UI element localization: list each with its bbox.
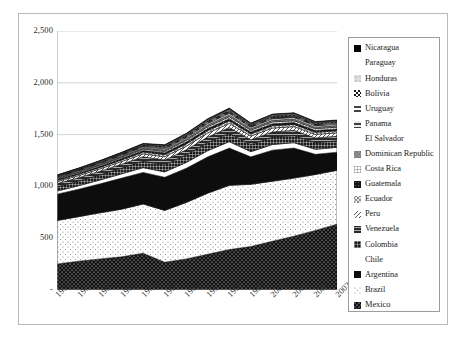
legend-item-label: Argentina xyxy=(365,271,398,279)
legend-item-brazil[interactable]: Brazil xyxy=(354,283,436,298)
legend-item-honduras[interactable]: Honduras xyxy=(354,71,436,86)
legend-swatch-icon xyxy=(354,196,361,203)
chart-legend: NicaraguaParaguayHondurasBoliviaUruguayP… xyxy=(348,37,440,312)
legend-swatch-icon xyxy=(354,181,361,188)
plot-area xyxy=(57,31,337,290)
legend-swatch-icon xyxy=(354,166,361,173)
legend-item-label: Panama xyxy=(365,120,391,128)
legend-item-ecuador[interactable]: Ecuador xyxy=(354,192,436,207)
legend-item-colombia[interactable]: Colombia xyxy=(354,237,436,252)
legend-swatch-icon xyxy=(354,60,361,67)
legend-item-label: Brazil xyxy=(365,286,385,294)
legend-item-bolivia[interactable]: Bolivia xyxy=(354,86,436,101)
legend-item-mexico[interactable]: Mexico xyxy=(354,298,436,313)
legend-item-costa-rica[interactable]: Costa Rica xyxy=(354,162,436,177)
legend-item-nicaragua[interactable]: Nicaragua xyxy=(354,41,436,56)
x-axis: 1990199119921993199419951996199719981999… xyxy=(57,292,347,338)
legend-item-label: Mexico xyxy=(365,301,390,309)
legend-item-label: Venezuela xyxy=(365,225,399,233)
y-axis-tick-label: 1,000 xyxy=(15,181,53,190)
legend-swatch-icon xyxy=(354,287,361,294)
chart-figure: 2,5002,0001,5001,000500- 199019911992199… xyxy=(0,0,465,353)
legend-item-label: Uruguay xyxy=(365,105,394,113)
legend-swatch-icon xyxy=(354,271,361,278)
legend-item-dominican-republic[interactable]: Dominican Republic xyxy=(354,147,436,162)
y-axis-tick-label: 500 xyxy=(15,233,53,242)
legend-item-argentina[interactable]: Argentina xyxy=(354,267,436,282)
legend-swatch-icon xyxy=(354,136,361,143)
legend-item-panama[interactable]: Panama xyxy=(354,116,436,131)
y-axis-tick-label: 1,500 xyxy=(15,130,53,139)
legend-item-label: Dominican Republic xyxy=(365,150,434,158)
legend-item-label: Chile xyxy=(365,256,383,264)
legend-item-paraguay[interactable]: Paraguay xyxy=(354,56,436,71)
y-axis-tick-label: 2,000 xyxy=(15,78,53,87)
legend-item-peru[interactable]: Peru xyxy=(354,207,436,222)
legend-item-label: Paraguay xyxy=(365,59,396,67)
legend-swatch-icon xyxy=(354,90,361,97)
legend-item-guatemala[interactable]: Guatemala xyxy=(354,177,436,192)
legend-item-label: Bolivia xyxy=(365,90,389,98)
legend-item-label: Ecuador xyxy=(365,195,393,203)
y-axis-tick-label: - xyxy=(15,285,53,294)
legend-item-venezuela[interactable]: Venezuela xyxy=(354,222,436,237)
legend-swatch-icon xyxy=(354,256,361,263)
legend-swatch-icon xyxy=(354,302,361,309)
legend-item-chile[interactable]: Chile xyxy=(354,252,436,267)
legend-item-label: Honduras xyxy=(365,75,397,83)
legend-item-label: El Salvador xyxy=(365,135,404,143)
legend-swatch-icon xyxy=(354,121,361,128)
legend-item-uruguay[interactable]: Uruguay xyxy=(354,101,436,116)
legend-swatch-icon xyxy=(354,241,361,248)
area-series-group xyxy=(57,108,337,290)
legend-swatch-icon xyxy=(354,105,361,112)
legend-item-label: Costa Rica xyxy=(365,165,401,173)
legend-swatch-icon xyxy=(354,226,361,233)
y-axis-tick-label: 2,500 xyxy=(15,26,53,35)
legend-item-label: Colombia xyxy=(365,241,398,249)
legend-item-label: Peru xyxy=(365,210,380,218)
legend-item-label: Nicaragua xyxy=(365,44,399,52)
y-axis: 2,5002,0001,5001,000500- xyxy=(11,31,53,290)
legend-swatch-icon xyxy=(354,45,361,52)
legend-swatch-icon xyxy=(354,151,361,158)
legend-swatch-icon xyxy=(354,211,361,218)
legend-item-label: Guatemala xyxy=(365,180,401,188)
legend-swatch-icon xyxy=(354,75,361,82)
legend-item-el-salvador[interactable]: El Salvador xyxy=(354,132,436,147)
stacked-area-plot xyxy=(57,31,337,290)
